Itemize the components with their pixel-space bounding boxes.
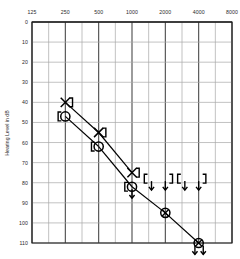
x-tick-2000: 2000: [159, 9, 171, 15]
x-tick-8000: 8000: [226, 9, 238, 15]
y-tick-10: 10: [10, 39, 28, 45]
y-tick-90: 90: [10, 200, 28, 206]
y-tick-0: 0: [10, 19, 28, 25]
y-tick-70: 70: [10, 160, 28, 166]
y-tick-80: 80: [10, 180, 28, 186]
y-tick-50: 50: [10, 119, 28, 125]
y-tick-100: 100: [10, 220, 28, 226]
grid-major-lines: [32, 22, 232, 243]
y-tick-40: 40: [10, 99, 28, 105]
x-tick-250: 250: [61, 9, 70, 15]
y-tick-20: 20: [10, 59, 28, 65]
y-tick-30: 30: [10, 79, 28, 85]
x-tick-4000: 4000: [193, 9, 205, 15]
y-tick-110: 110: [10, 240, 28, 246]
audiogram-plot: [0, 0, 240, 259]
x-tick-125: 125: [28, 9, 37, 15]
x-tick-1000: 1000: [126, 9, 138, 15]
x-tick-500: 500: [94, 9, 103, 15]
audiogram-chart: Hearing Level in dB 12525050010002000400…: [0, 0, 240, 259]
y-tick-60: 60: [10, 140, 28, 146]
